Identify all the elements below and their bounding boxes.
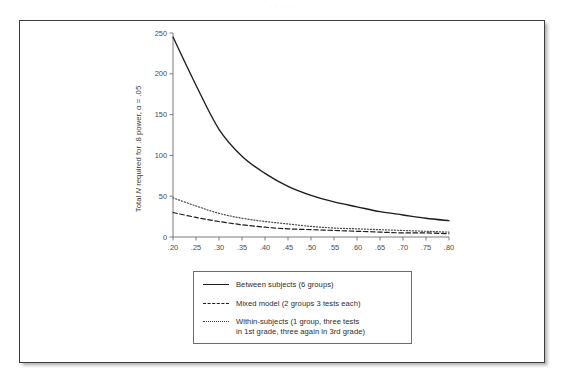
y-tick-label: 50	[159, 192, 167, 201]
x-tick-labels: .20.25.30.35.40.45.50.55.60.65.70.75.80	[168, 243, 454, 252]
x-tick-label: .35	[237, 243, 247, 252]
y-tick-label: 100	[155, 151, 167, 160]
series-line-solid	[173, 37, 449, 221]
y-tick-label: 200	[155, 69, 167, 78]
x-tick-label: .50	[306, 243, 316, 252]
legend-item-mixed-model: Mixed model (2 groups 3 tests each)	[203, 299, 361, 309]
y-axis-title: Total N required for .8 power, α = .05	[134, 85, 143, 212]
x-tick-label: .75	[421, 243, 431, 252]
x-tick-label: .40	[260, 243, 270, 252]
legend-swatch-dotted-line-icon	[203, 317, 229, 326]
y-tick-label: 150	[155, 110, 167, 119]
y-tick-label: 250	[155, 29, 167, 38]
legend-label: Within-subjects (1 group, three tests in…	[236, 317, 365, 336]
y-tick-labels: 050100150200250	[155, 29, 167, 242]
legend-swatch-solid-line-icon	[203, 280, 229, 289]
legend-label: Between subjects (6 groups)	[236, 280, 334, 290]
legend-item-between-subjects: Between subjects (6 groups)	[203, 280, 334, 290]
x-tick-label: .20	[168, 243, 178, 252]
axes-group	[170, 33, 450, 241]
x-tick-label: .80	[444, 243, 454, 252]
y-axis-title-text: Total N required for .8 power, α = .05	[134, 85, 143, 212]
x-tick-label: .60	[352, 243, 362, 252]
legend-item-within-subjects: Within-subjects (1 group, three tests in…	[203, 317, 365, 336]
x-tick-label: .45	[283, 243, 293, 252]
x-tick-label: .25	[191, 243, 201, 252]
legend-label: Mixed model (2 groups 3 tests each)	[236, 299, 361, 309]
svg-text:Total N required for .8 power,: Total N required for .8 power, α = .05	[134, 85, 143, 212]
legend-swatch-dashed-line-icon	[203, 299, 229, 308]
x-tick-label: .55	[329, 243, 339, 252]
x-tick-label: .70	[398, 243, 408, 252]
y-tick-label: 0	[163, 233, 167, 242]
x-tick-label: .65	[375, 243, 385, 252]
series-group	[173, 37, 449, 234]
x-tick-label: .30	[214, 243, 224, 252]
figure-frame: 050100150200250 .20.25.30.35.40.45.50.55…	[19, 20, 545, 363]
chart-legend: Between subjects (6 groups) Mixed model …	[193, 271, 412, 344]
page-header-faint-text: · · · · ·	[0, 0, 565, 13]
